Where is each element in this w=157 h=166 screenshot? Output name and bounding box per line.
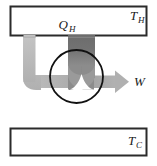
heat-input-label-subscript: H [68,24,76,34]
cold-reservoir-label-subscript: C [136,140,143,150]
diagram-canvas: Q H T H T C W [0,0,157,166]
work-output-label: W [134,74,146,89]
hot-reservoir-label-subscript: H [137,15,145,25]
heat-engine-figure: Q H T H T C W [0,0,157,166]
hot-reservoir-label: T [130,8,138,23]
cold-reservoir-label: T [128,133,136,148]
hot-reservoir-box [11,7,147,36]
cold-reservoir-box [11,129,147,156]
heat-input-label: Q [59,17,69,32]
